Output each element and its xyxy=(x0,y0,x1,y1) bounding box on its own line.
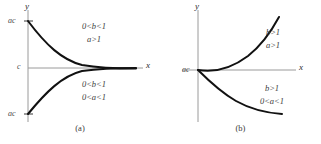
panel-a-annotation-upper-line1: 0<b<1 xyxy=(58,20,130,33)
panel-a-tick-label-mid: c xyxy=(17,63,21,71)
panel-b-y-axis-label: y xyxy=(195,2,199,11)
panel-a-x-axis-label: x xyxy=(146,61,150,70)
panel-b-annotation-lower: b>1 0<a<1 xyxy=(238,82,306,108)
panel-b-annotation-upper-line1: b>1 xyxy=(242,26,304,39)
panel-a-y-axis-label: y xyxy=(25,2,29,11)
panel-b-annotation-lower-line1: b>1 xyxy=(238,82,306,95)
panel-a-tick-label-top: ac xyxy=(8,17,16,25)
panel-b-caption: (b) xyxy=(160,124,321,133)
panel-a-tick-label-bottom: ac xyxy=(8,110,16,118)
panel-a-annotation-lower: 0<b<1 0<a<1 xyxy=(58,78,130,104)
panel-b-tick-label-origin: ac xyxy=(182,66,190,74)
panel-a-annotation-lower-line1: 0<b<1 xyxy=(58,78,130,91)
panel-a-annotation-upper-line2: a>1 xyxy=(58,33,130,46)
panel-a: y x ac c ac 0<b<1 a>1 0<b<1 0<a<1 (a) xyxy=(0,0,160,144)
panel-b-annotation-upper: b>1 a>1 xyxy=(242,26,304,52)
exponential-functions-figure: y x ac c ac 0<b<1 a>1 0<b<1 0<a<1 (a) y xyxy=(0,0,321,144)
panel-b-annotation-lower-line2: 0<a<1 xyxy=(238,95,306,108)
panel-b-x-axis-label: x xyxy=(299,63,303,72)
panel-b: y x ac b>1 a>1 b>1 0<a<1 (b) xyxy=(160,0,321,144)
panel-b-annotation-upper-line2: a>1 xyxy=(242,39,304,52)
panel-a-annotation-lower-line2: 0<a<1 xyxy=(58,91,130,104)
panel-a-annotation-upper: 0<b<1 a>1 xyxy=(58,20,130,46)
panel-a-caption: (a) xyxy=(0,124,160,133)
